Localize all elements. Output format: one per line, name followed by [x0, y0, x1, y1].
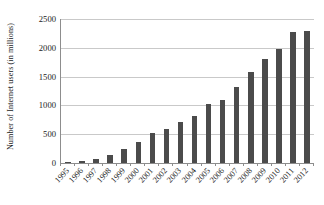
- bar-series: [61, 19, 314, 163]
- y-axis-tick-labels: 05001000150020002500: [24, 19, 56, 163]
- x-tick-mark-8: [172, 163, 173, 166]
- bar-2007: [234, 87, 240, 163]
- x-tick-mark-14: [257, 163, 258, 166]
- y-tick-label-1000: 1000: [39, 101, 56, 110]
- plot-area: [60, 19, 314, 164]
- x-tick-mark-0: [60, 163, 61, 166]
- bar-2010: [276, 49, 282, 163]
- x-tick-label-2012: 2012: [293, 167, 310, 185]
- x-tick-mark-6: [144, 163, 145, 166]
- x-tick-mark-16: [285, 163, 286, 166]
- bar-1998: [107, 155, 113, 163]
- bar-2003: [178, 122, 184, 163]
- bar-2001: [150, 133, 156, 163]
- x-tick-mark-9: [187, 163, 188, 166]
- y-axis-title: Number of Internet users (in millions): [7, 22, 16, 149]
- x-tick-mark-15: [271, 163, 272, 166]
- bar-1999: [121, 149, 127, 163]
- bar-2006: [220, 100, 226, 163]
- bar-2008: [248, 72, 254, 163]
- x-tick-mark-17: [299, 163, 300, 166]
- x-tick-mark-10: [201, 163, 202, 166]
- x-tick-mark-7: [158, 163, 159, 166]
- y-tick-label-500: 500: [43, 130, 56, 139]
- y-tick-label-2500: 2500: [39, 15, 56, 24]
- y-tick-label-1500: 1500: [39, 72, 56, 81]
- y-tick-label-2000: 2000: [39, 44, 56, 53]
- x-tick-mark-13: [243, 163, 244, 166]
- bar-2000: [136, 142, 142, 163]
- bar-2009: [262, 59, 268, 163]
- y-axis-title-container: Number of Internet users (in millions): [0, 0, 22, 172]
- x-tick-mark-2: [88, 163, 89, 166]
- x-tick-mark-18: [313, 163, 314, 166]
- bar-2012: [304, 31, 310, 163]
- x-tick-mark-5: [130, 163, 131, 166]
- x-tick-mark-3: [102, 163, 103, 166]
- chart-figure: Number of Internet users (in millions) 0…: [0, 0, 324, 205]
- bar-2011: [290, 32, 296, 163]
- x-tick-mark-1: [74, 163, 75, 166]
- x-tick-mark-12: [229, 163, 230, 166]
- y-tick-label-0: 0: [52, 159, 56, 168]
- x-tick-mark-11: [215, 163, 216, 166]
- bar-2004: [192, 116, 198, 163]
- bar-2002: [164, 129, 170, 163]
- bar-2005: [206, 104, 212, 163]
- x-tick-mark-4: [116, 163, 117, 166]
- x-axis-tick-labels: 1995199619971998199920002001200220032004…: [60, 167, 313, 205]
